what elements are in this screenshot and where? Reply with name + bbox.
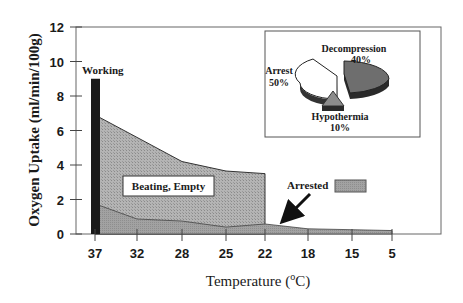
arrow-arrested [286,194,310,218]
bar-working [91,79,100,234]
svg-text:6: 6 [57,124,64,139]
svg-text:Hypothermia: Hypothermia [311,111,368,122]
svg-text:2: 2 [57,193,64,208]
svg-text:4: 4 [57,158,65,173]
y-axis-title: Oxygen Uptake (ml/min/100g) [26,33,43,226]
svg-text:37: 37 [88,246,102,261]
inset-pie: Decompression 40% Arrest 50% Hypothermia… [265,31,420,137]
label-arrested: Arrested [287,179,328,191]
svg-text:28: 28 [175,246,189,261]
svg-text:8: 8 [57,89,64,104]
svg-text:32: 32 [130,246,144,261]
svg-text:0: 0 [57,227,64,242]
x-axis-title: Temperature (oC) [206,271,310,290]
chart: 024681012 373228252218155 Working Beatin… [0,0,463,303]
svg-text:Decompression: Decompression [322,43,387,54]
svg-text:18: 18 [301,246,315,261]
label-working: Working [82,64,124,76]
legend-swatch-arrested [335,180,366,192]
svg-text:50%: 50% [269,77,289,88]
svg-text:Arrest: Arrest [265,65,293,76]
svg-text:15: 15 [345,246,359,261]
svg-text:22: 22 [258,246,272,261]
svg-text:40%: 40% [351,54,371,65]
svg-text:12: 12 [50,20,64,35]
svg-text:10%: 10% [330,122,350,133]
label-beating-empty: Beating, Empty [132,180,206,192]
svg-text:5: 5 [388,246,395,261]
svg-text:10: 10 [50,55,64,70]
y-axis-ticks: 024681012 [50,20,82,242]
svg-text:25: 25 [219,246,233,261]
